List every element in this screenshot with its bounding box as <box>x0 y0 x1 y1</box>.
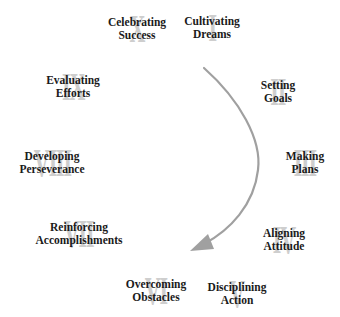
step-making-plans: III Making Plans <box>286 150 324 176</box>
step-label: Overcoming Obstacles <box>126 278 186 304</box>
step-label-line2: Dreams <box>184 28 240 41</box>
step-label-line1: Evaluating <box>46 74 100 87</box>
step-label-line2: Obstacles <box>126 291 186 304</box>
step-developing-perseverance: VIII Developing Perseverance <box>19 150 84 176</box>
step-label-line1: Cultivating <box>184 15 240 28</box>
step-label-line1: Reinforcing <box>36 221 123 234</box>
step-label-line1: Setting <box>261 79 296 92</box>
step-label: Cultivating Dreams <box>184 15 240 41</box>
step-label-line2: Efforts <box>46 87 100 100</box>
step-label-line1: Aligning <box>263 227 305 240</box>
step-label-line1: Disciplining <box>208 281 267 294</box>
step-label: Making Plans <box>286 150 324 176</box>
step-label-line2: Perseverance <box>19 163 84 176</box>
step-cultivating-dreams: I Cultivating Dreams <box>184 15 240 41</box>
step-label: Developing Perseverance <box>19 150 84 176</box>
step-label: Aligning Attitude <box>263 227 305 253</box>
step-label-line2: Action <box>208 294 267 307</box>
cycle-diagram: I Cultivating Dreams II Setting Goals II… <box>0 0 340 317</box>
step-label-line1: Celebrating <box>108 16 166 29</box>
step-label-line1: Making <box>286 150 324 163</box>
step-reinforcing-accomplishments: VII Reinforcing Accomplishments <box>36 221 123 247</box>
step-label-line2: Plans <box>286 163 324 176</box>
step-overcoming-obstacles: VI Overcoming Obstacles <box>126 278 186 304</box>
step-evaluating-efforts: IX Evaluating Efforts <box>46 74 100 100</box>
step-setting-goals: II Setting Goals <box>261 79 296 105</box>
step-label: Celebrating Success <box>108 16 166 42</box>
step-label: Evaluating Efforts <box>46 74 100 100</box>
step-label-line1: Developing <box>19 150 84 163</box>
step-label: Setting Goals <box>261 79 296 105</box>
step-label: Disciplining Action <box>208 281 267 307</box>
step-label-line2: Accomplishments <box>36 234 123 247</box>
step-aligning-attitude: IV Aligning Attitude <box>263 227 305 253</box>
step-label-line2: Goals <box>261 92 296 105</box>
step-label-line2: Attitude <box>263 240 305 253</box>
step-celebrating-success: X Celebrating Success <box>108 16 166 42</box>
step-label: Reinforcing Accomplishments <box>36 221 123 247</box>
step-disciplining-action: V Disciplining Action <box>208 281 267 307</box>
step-label-line1: Overcoming <box>126 278 186 291</box>
step-label-line2: Success <box>108 29 166 42</box>
